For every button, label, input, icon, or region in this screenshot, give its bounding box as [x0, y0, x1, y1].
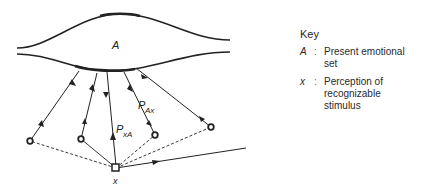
svg-text:Ax: Ax [144, 106, 155, 115]
region-upper-boundary [17, 14, 230, 48]
region-lower-boundary [17, 52, 230, 71]
legend-symbol: x [300, 76, 314, 112]
svg-text:xA: xA [122, 130, 132, 139]
p-ax-label: P Ax [138, 99, 155, 115]
legend-description: Perception of recognizable stimulus [324, 76, 414, 112]
emotional-set-diagram: A x P A [0, 0, 290, 190]
stimulus-node [112, 164, 119, 171]
legend-separator: : [314, 76, 324, 112]
stimulus-label: x [112, 176, 118, 186]
legend-item: x : Perception of recognizable stimulus [300, 76, 414, 112]
legend-item: A : Present emotional set [300, 46, 414, 70]
legend-symbol: A [300, 46, 314, 70]
legend-description: Present emotional set [324, 46, 414, 70]
legend-separator: : [314, 46, 324, 70]
region-label: A [111, 39, 119, 51]
pxa-arrow [107, 72, 116, 166]
legend-title: Key [300, 28, 414, 40]
legend: Key A : Present emotional set x : Percep… [300, 28, 414, 118]
p-xa-label: P xA [116, 123, 132, 139]
